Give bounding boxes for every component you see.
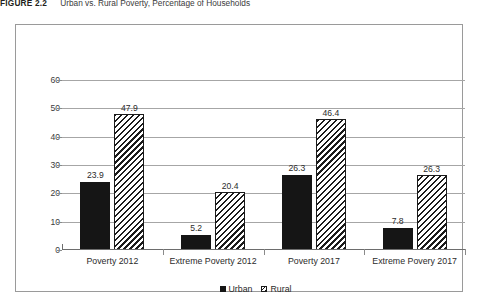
x-axis-category-label: Poverty 2017 bbox=[264, 256, 365, 266]
bar-urban-3[interactable]: 26.3 bbox=[282, 175, 312, 250]
bar-group: 5.220.4 bbox=[181, 80, 245, 250]
y-tick-mark bbox=[57, 193, 62, 194]
bar-value-label: 7.8 bbox=[392, 217, 404, 226]
category-separator bbox=[364, 249, 365, 255]
y-tick-mark bbox=[57, 80, 62, 81]
bar-value-label: 5.2 bbox=[190, 224, 202, 233]
y-tick-mark bbox=[57, 137, 62, 138]
x-axis-category-label: Extreme Povery 2017 bbox=[364, 256, 465, 266]
bar-urban-2[interactable]: 5.2 bbox=[181, 235, 211, 250]
figure-title: Urban vs. Rural Poverty, Percentage of H… bbox=[60, 0, 250, 8]
bar-group: 7.826.3 bbox=[383, 80, 447, 250]
bar-value-label: 46.4 bbox=[323, 109, 340, 118]
bar-group: 26.346.4 bbox=[282, 80, 346, 250]
figure-caption: FIGURE 2.2Urban vs. Rural Poverty, Perce… bbox=[0, 0, 479, 11]
legend-label: Urban bbox=[229, 284, 253, 294]
y-axis: 0102030405060 bbox=[22, 25, 60, 304]
bar-urban-4[interactable]: 7.8 bbox=[383, 228, 413, 250]
plot-area: 23.947.95.220.426.346.47.826.3 bbox=[62, 80, 465, 250]
y-tick-label: 0 bbox=[32, 246, 60, 255]
y-axis-line bbox=[62, 244, 63, 250]
y-tick-mark bbox=[57, 108, 62, 109]
figure-number: FIGURE 2.2 bbox=[0, 0, 47, 8]
y-tick-label: 40 bbox=[32, 133, 60, 142]
bar-rural-3[interactable]: 46.4 bbox=[316, 119, 346, 250]
bar-rural-4[interactable]: 26.3 bbox=[417, 175, 447, 250]
legend-label: Rural bbox=[270, 284, 291, 294]
y-tick-mark bbox=[57, 165, 62, 166]
legend-item-urban[interactable]: Urban bbox=[220, 284, 253, 294]
y-tick-label: 30 bbox=[32, 161, 60, 170]
chart-legend: UrbanRural bbox=[16, 284, 479, 294]
diagonal-hatch-square-icon bbox=[261, 286, 267, 292]
category-separator bbox=[465, 249, 466, 255]
y-tick-mark bbox=[57, 222, 62, 223]
category-separator bbox=[264, 249, 265, 255]
bar-value-label: 47.9 bbox=[121, 104, 138, 113]
category-separator bbox=[163, 249, 164, 255]
bar-urban-1[interactable]: 23.9 bbox=[80, 182, 110, 250]
legend-item-rural[interactable]: Rural bbox=[261, 284, 291, 294]
y-tick-label: 20 bbox=[32, 189, 60, 198]
bar-value-label: 23.9 bbox=[87, 171, 104, 180]
bar-rural-1[interactable]: 47.9 bbox=[114, 114, 144, 250]
chart-frame: 0102030405060 23.947.95.220.426.346.47.8… bbox=[15, 24, 463, 292]
bar-rural-2[interactable]: 20.4 bbox=[215, 192, 245, 250]
y-tick-label: 50 bbox=[32, 104, 60, 113]
bar-value-label: 26.3 bbox=[423, 165, 440, 174]
bar-value-label: 26.3 bbox=[289, 164, 306, 173]
bar-group: 23.947.9 bbox=[80, 80, 144, 250]
x-axis-category-label: Extreme Poverty 2012 bbox=[163, 256, 264, 266]
bar-value-label: 20.4 bbox=[222, 182, 239, 191]
y-tick-label: 60 bbox=[32, 76, 60, 85]
x-axis-category-label: Poverty 2012 bbox=[62, 256, 163, 266]
y-tick-mark bbox=[57, 250, 62, 251]
y-tick-label: 10 bbox=[32, 218, 60, 227]
solid-black-square-icon bbox=[220, 286, 226, 292]
